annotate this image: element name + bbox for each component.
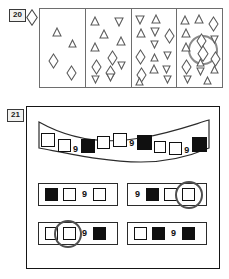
triangle-down-icon [163, 75, 172, 84]
triangle-up-icon [181, 28, 191, 38]
banner-cell [41, 133, 55, 155]
q20-panel-1[interactable] [40, 9, 86, 87]
black-square [45, 188, 58, 201]
triangle-up-icon [196, 58, 205, 67]
numeral-nine: 9 [170, 229, 177, 238]
black-square [146, 188, 159, 201]
triangle-down-icon [135, 15, 145, 25]
triangle-up-icon [68, 39, 77, 48]
black-square [152, 227, 165, 240]
question-20: 20 [0, 0, 229, 96]
banner-cell: 9 [184, 146, 189, 155]
black-square [81, 139, 95, 153]
banner-sequence: 999 [41, 131, 207, 155]
numeral-nine: 9 [134, 190, 141, 199]
white-square [58, 139, 71, 152]
triangle-up-icon [180, 15, 190, 25]
triangle-down-icon [106, 73, 115, 82]
diamond-icon [135, 49, 146, 65]
banner-cell: 9 [73, 145, 78, 155]
triangle-up-icon [181, 42, 191, 52]
white-square [97, 136, 110, 149]
triangle-down-icon [150, 40, 159, 49]
triangle-down-icon [163, 51, 172, 60]
banner-cell [137, 135, 152, 155]
triangle-up-icon [203, 76, 212, 85]
numeral-nine: 9 [184, 146, 189, 155]
diamond-icon [208, 16, 219, 32]
white-square [154, 141, 166, 153]
hand-drawn-selection-circle [54, 220, 82, 248]
triangle-up-icon [116, 36, 126, 46]
hand-drawn-selection-circle [175, 181, 203, 209]
triangle-up-icon [210, 65, 219, 74]
diamond-icon [48, 53, 59, 69]
triangle-up-icon [136, 28, 146, 38]
white-square [113, 133, 127, 147]
white-square [41, 133, 55, 147]
banner-cell [58, 139, 71, 155]
banner-cell [97, 136, 110, 155]
q20-panel-3[interactable] [132, 9, 178, 87]
diamond-icon [91, 59, 102, 75]
diamond-icon [66, 65, 77, 81]
q20-panel-2[interactable] [86, 9, 132, 87]
banner-cell [154, 141, 166, 155]
black-square [192, 137, 207, 152]
numeral-nine: 9 [81, 190, 88, 199]
white-square [93, 188, 106, 201]
triangle-down-icon [183, 75, 192, 84]
question-20-key-diamond-icon [26, 9, 38, 26]
question-20-panels [39, 8, 223, 88]
option-b[interactable]: 9 [127, 183, 207, 206]
triangle-down-icon [196, 67, 205, 76]
banner-cell [113, 133, 127, 155]
question-21-number: 21 [7, 109, 24, 122]
triangle-down-icon [117, 61, 126, 70]
triangle-down-icon [162, 65, 171, 74]
white-square [169, 142, 182, 155]
banner-cell [169, 142, 182, 155]
triangle-up-icon [52, 27, 62, 37]
triangle-up-icon [135, 77, 144, 86]
triangle-down-icon [114, 17, 124, 27]
triangle-up-icon [194, 14, 204, 24]
white-square [134, 227, 147, 240]
q20-panel-4[interactable] [177, 9, 222, 87]
triangle-down-icon [150, 27, 160, 37]
triangle-up-icon [151, 14, 161, 24]
numeral-nine: 9 [129, 139, 134, 148]
option-c[interactable]: 9 [38, 222, 118, 245]
diamond-icon [164, 28, 175, 44]
pattern-banner: 999 [37, 118, 211, 166]
numeral-nine: 9 [73, 145, 78, 154]
triangle-down-icon [210, 35, 219, 44]
black-square [137, 135, 152, 150]
banner-cell [81, 139, 95, 155]
black-square [93, 227, 106, 240]
banner-cell [192, 137, 207, 155]
black-square [182, 227, 195, 240]
numeral-nine: 9 [81, 229, 88, 238]
worksheet-page: 20 [0, 0, 229, 279]
option-d[interactable]: 9 [127, 222, 207, 245]
triangle-up-icon [90, 42, 100, 52]
triangle-down-icon [91, 75, 100, 84]
triangle-up-icon [99, 29, 109, 39]
white-square [63, 188, 76, 201]
option-a[interactable]: 9 [38, 183, 118, 206]
triangle-up-icon [150, 53, 159, 62]
banner-cell: 9 [129, 139, 134, 155]
question-20-number: 20 [9, 9, 26, 22]
triangle-up-icon [90, 16, 100, 26]
triangle-up-icon [149, 64, 159, 74]
diamond-icon [181, 59, 192, 75]
question-21: 21 999 9 9 9 9 [0, 98, 229, 279]
question-21-frame: 999 9 9 9 9 [26, 106, 220, 269]
